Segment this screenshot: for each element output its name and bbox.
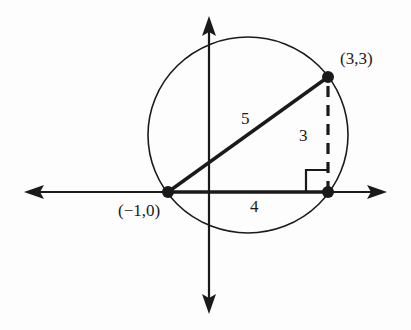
vertex-point-upper-right	[322, 71, 334, 83]
vertex-point-left	[162, 186, 174, 198]
geometry-figure: (3,3) (−1,0) 5 3 4	[0, 0, 411, 330]
point-label-left: (−1,0)	[118, 202, 160, 219]
length-label-vertical-leg: 3	[299, 127, 308, 144]
length-label-hypotenuse: 5	[241, 110, 250, 127]
vertex-point-lower-right	[322, 186, 334, 198]
length-label-horizontal-leg: 4	[250, 198, 259, 215]
point-label-upper-right: (3,3)	[340, 50, 373, 67]
